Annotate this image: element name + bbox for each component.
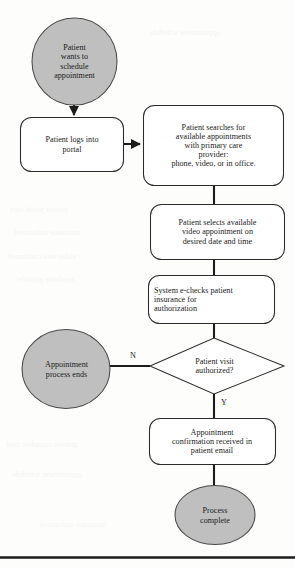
flowchart-canvas: appointment schedule patient portal care… xyxy=(0,0,295,569)
node-login-shape xyxy=(21,118,124,172)
node-confirm-shape xyxy=(150,419,276,465)
node-complete-shape xyxy=(175,486,255,545)
node-ends-shape xyxy=(22,330,110,409)
node-start-shape xyxy=(32,18,117,105)
node-echeck-shape xyxy=(149,276,275,324)
node-select-shape xyxy=(151,205,285,260)
edge-label-yes: Y xyxy=(221,399,227,407)
flowchart-graphics xyxy=(0,0,295,569)
node-decision-shape xyxy=(150,338,284,394)
edge-label-no: N xyxy=(130,352,136,360)
node-search-shape xyxy=(144,106,284,186)
